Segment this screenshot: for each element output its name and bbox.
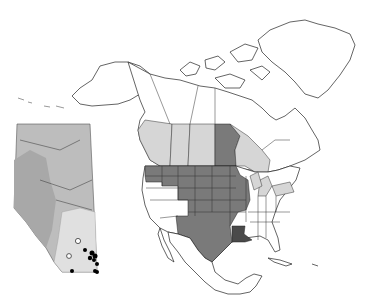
greenland [258,20,355,98]
filled-point [92,258,96,262]
filled-point [70,269,74,273]
filled-point [83,248,87,252]
filled-point [93,254,98,259]
saskatchewan [188,124,215,166]
filled-point [95,270,99,274]
alberta [170,124,190,166]
open-point [67,254,72,259]
caribbean-islands [268,258,318,266]
british-columbia [138,120,172,166]
filled-point [88,256,92,260]
north-america-map [0,0,365,296]
aleutian-islands [18,98,64,108]
open-point [75,238,80,243]
filled-point [95,262,99,266]
alberta-inset [14,124,99,274]
arctic-archipelago [180,44,270,88]
